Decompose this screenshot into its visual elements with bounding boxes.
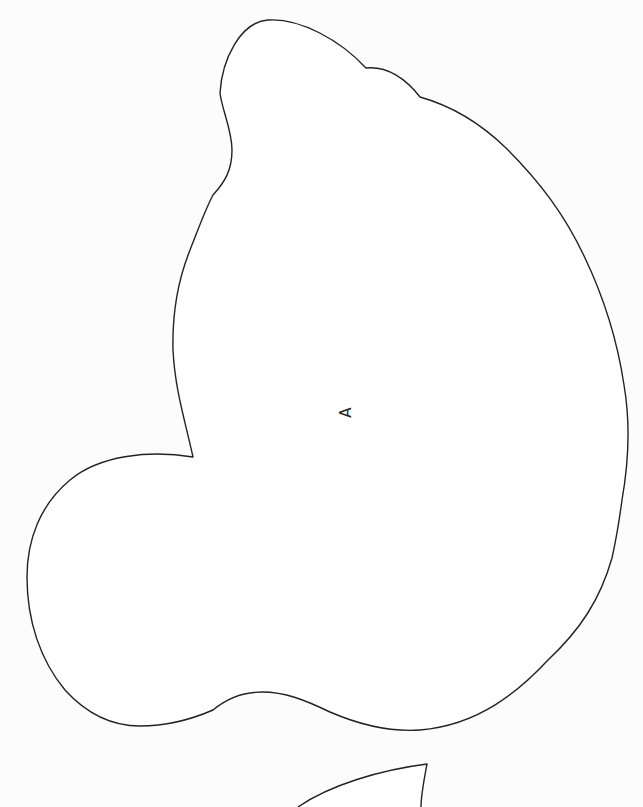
region-outlines	[0, 0, 643, 807]
region-bottom-partial-shape[interactable]	[298, 764, 427, 807]
region-a-label: A	[339, 407, 354, 417]
region-a-shape[interactable]	[27, 20, 628, 730]
diagram-canvas: A	[0, 0, 643, 807]
